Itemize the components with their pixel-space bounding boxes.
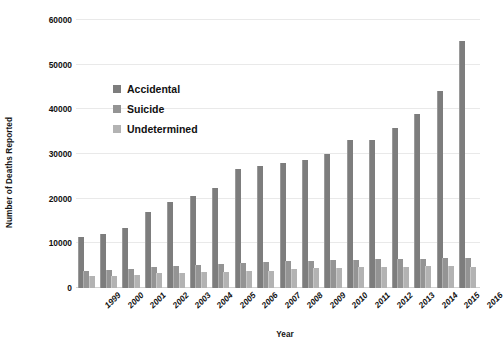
x-tick-label: 2007 bbox=[282, 290, 302, 310]
bar-group bbox=[413, 20, 435, 288]
legend-item-suicide[interactable]: Suicide bbox=[113, 99, 198, 119]
y-axis-title: Number of Deaths Reported bbox=[2, 112, 18, 232]
bar-undetermined-2005 bbox=[223, 272, 229, 288]
bar-undetermined-2007 bbox=[268, 271, 274, 288]
legend-swatch-icon bbox=[113, 125, 121, 133]
bar-undetermined-2008 bbox=[291, 269, 297, 288]
y-tick-label: 10000 bbox=[49, 238, 72, 248]
chart-legend: AccidentalSuicideUndetermined bbox=[113, 79, 198, 139]
x-tick-label: 2016 bbox=[484, 290, 504, 310]
chart-title-clipped bbox=[0, 0, 494, 9]
bar-group bbox=[256, 20, 278, 288]
y-axis-tick-labels: 0100002000030000400005000060000 bbox=[28, 20, 72, 288]
x-axis-tick-labels: 1999200020012002200320042005200620072008… bbox=[76, 290, 480, 326]
bar-group bbox=[300, 20, 322, 288]
legend-label: Accidental bbox=[127, 83, 180, 95]
bar-group bbox=[435, 20, 457, 288]
x-tick-label: 2009 bbox=[327, 290, 347, 310]
bar-undetermined-2013 bbox=[403, 267, 409, 288]
y-axis-title-text: Number of Deaths Reported bbox=[6, 116, 15, 227]
bar-undetermined-2002 bbox=[156, 273, 162, 288]
bar-undetermined-2001 bbox=[134, 275, 140, 288]
bar-undetermined-2010 bbox=[336, 268, 342, 288]
bar-undetermined-2009 bbox=[313, 268, 319, 288]
bar-group bbox=[143, 20, 165, 288]
bar-group bbox=[76, 20, 98, 288]
x-tick-label: 2008 bbox=[305, 290, 325, 310]
bar-undetermined-2006 bbox=[246, 271, 252, 288]
legend-swatch-icon bbox=[113, 85, 121, 93]
y-tick-label: 60000 bbox=[49, 15, 72, 25]
y-tick-label: 50000 bbox=[49, 60, 72, 70]
legend-swatch-icon bbox=[113, 105, 121, 113]
plot-area bbox=[76, 20, 480, 288]
x-tick-label: 2010 bbox=[350, 290, 370, 310]
x-tick-label: 2005 bbox=[237, 290, 257, 310]
y-tick-label: 40000 bbox=[49, 104, 72, 114]
bar-group bbox=[323, 20, 345, 288]
bar-undetermined-1999 bbox=[89, 276, 95, 288]
bar-undetermined-2012 bbox=[381, 267, 387, 288]
x-tick-label: 2003 bbox=[192, 290, 212, 310]
bar-group bbox=[368, 20, 390, 288]
x-tick-label: 2004 bbox=[215, 290, 235, 310]
bar-group bbox=[188, 20, 210, 288]
bar-group bbox=[98, 20, 120, 288]
bar-undetermined-2014 bbox=[425, 266, 431, 288]
x-tick-label: 2015 bbox=[462, 290, 482, 310]
y-tick-label: 20000 bbox=[49, 194, 72, 204]
x-axis-title-text: Year bbox=[276, 330, 293, 339]
bar-group bbox=[211, 20, 233, 288]
x-tick-label: 2001 bbox=[148, 290, 168, 310]
bar-undetermined-2016 bbox=[470, 267, 476, 288]
bar-groups bbox=[76, 20, 480, 288]
bar-group bbox=[390, 20, 412, 288]
x-axis-title: Year bbox=[0, 330, 494, 339]
bar-group bbox=[458, 20, 480, 288]
x-tick-label: 2013 bbox=[417, 290, 437, 310]
bar-undetermined-2004 bbox=[201, 272, 207, 288]
bar-undetermined-2011 bbox=[358, 267, 364, 288]
x-tick-label: 2006 bbox=[260, 290, 280, 310]
bar-group bbox=[278, 20, 300, 288]
x-tick-label: 2000 bbox=[125, 290, 145, 310]
x-tick-label: 2011 bbox=[372, 290, 392, 310]
x-tick-label: 2012 bbox=[394, 290, 414, 310]
bar-accidental-2016 bbox=[459, 41, 465, 288]
x-tick-label: 2002 bbox=[170, 290, 190, 310]
bar-group bbox=[166, 20, 188, 288]
bar-undetermined-2000 bbox=[111, 276, 117, 288]
y-tick-label: 30000 bbox=[49, 149, 72, 159]
x-tick-label: 2014 bbox=[439, 290, 459, 310]
legend-label: Suicide bbox=[127, 103, 164, 115]
legend-item-undetermined[interactable]: Undetermined bbox=[113, 119, 198, 139]
bar-undetermined-2015 bbox=[448, 266, 454, 288]
legend-label: Undetermined bbox=[127, 123, 198, 135]
legend-item-accidental[interactable]: Accidental bbox=[113, 79, 198, 99]
y-tick-label: 0 bbox=[67, 283, 72, 293]
bar-undetermined-2003 bbox=[179, 273, 185, 288]
bar-group bbox=[121, 20, 143, 288]
x-tick-label: 1999 bbox=[103, 290, 123, 310]
bar-group bbox=[345, 20, 367, 288]
bar-group bbox=[233, 20, 255, 288]
